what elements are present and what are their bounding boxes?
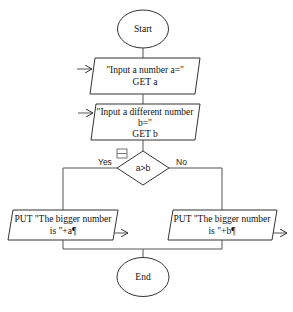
end-label: End: [135, 272, 151, 282]
output-b-block[interactable]: PUT "The bigger number is "+b¶: [168, 210, 277, 240]
input-b-get: GET b: [132, 129, 158, 139]
no-branch-line: [169, 168, 222, 210]
input-b-block[interactable]: "Input a different number b=" GET b: [91, 104, 200, 140]
end-terminal[interactable]: End: [117, 258, 169, 297]
output-a-block[interactable]: PUT "The bigger number is "+a¶: [8, 210, 118, 240]
flowchart-canvas: Start "Input a number a=" GET a "Input a…: [0, 0, 293, 312]
input-a-get: GET a: [133, 77, 159, 87]
output-b-line2: is "+b¶: [208, 226, 236, 236]
no-label: No: [176, 157, 187, 167]
yes-label: Yes: [98, 157, 112, 167]
input-b-prompt-line1: "Input a different number: [97, 107, 195, 117]
decision-condition: a>b: [136, 163, 151, 173]
output-b-line1: PUT "The bigger number: [174, 214, 272, 224]
start-label: Start: [134, 24, 152, 34]
output-a-line2: is "+a¶: [50, 226, 77, 236]
output-a-line1: PUT "The bigger number: [15, 214, 113, 224]
yes-branch-line: [63, 168, 117, 210]
input-b-prompt-line2: b=": [138, 118, 152, 128]
collapse-toggle-icon[interactable]: [117, 149, 127, 158]
start-terminal[interactable]: Start: [118, 10, 169, 48]
merge-line: [63, 240, 222, 249]
input-a-block[interactable]: "Input a number a=" GET a: [90, 58, 200, 94]
input-a-prompt: "Input a number a=": [106, 65, 184, 75]
